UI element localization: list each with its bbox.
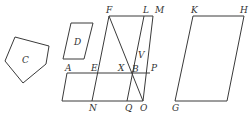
label-n: N [88,103,98,113]
label-k: K [190,5,199,15]
label-g: G [172,103,179,113]
parallelogram-khg [175,16,244,101]
label-l: L [142,5,149,15]
label-f: F [105,5,113,15]
segment-mo [143,16,153,101]
label-c: C [22,55,29,65]
label-b: B [131,64,139,74]
label-h: H [239,5,248,15]
label-q: Q [125,103,133,113]
geometry-diagram: C D F L M A E X B P V N Q O K H G [0,0,249,116]
label-e: E [90,63,98,73]
label-a: A [64,63,72,73]
segment-fn [92,16,109,101]
label-p: P [150,63,158,73]
segment-a-left [62,73,67,101]
label-d: D [73,37,81,47]
label-o: O [140,103,148,113]
label-x: X [117,63,125,73]
label-m: M [154,5,165,15]
label-v: V [138,50,146,60]
